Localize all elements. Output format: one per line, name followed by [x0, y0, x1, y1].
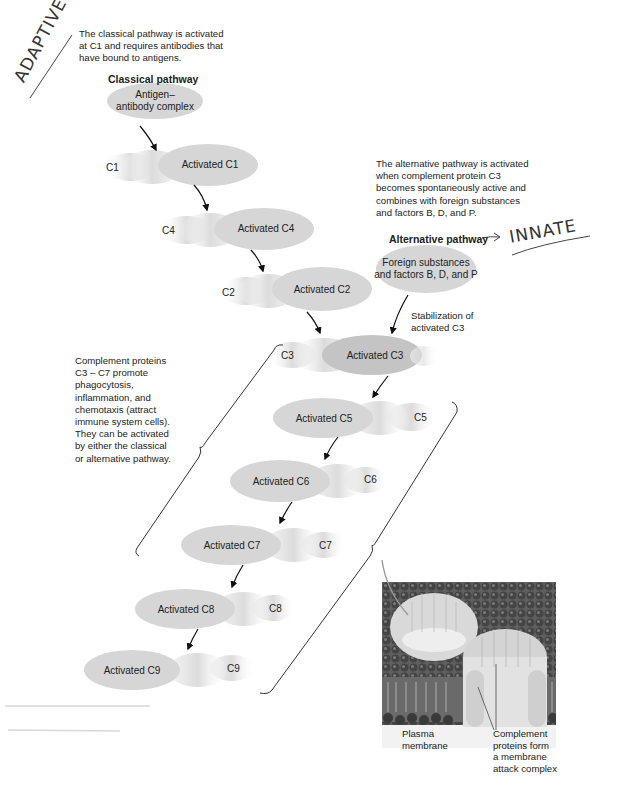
stabilization-label: Stabilization of activated C3	[411, 310, 473, 334]
note-line: chemotaxis (attract	[75, 404, 171, 416]
arrow-alt-to-c3	[392, 295, 408, 333]
arrow-c5-to-c6	[325, 437, 338, 459]
membrane-label-line: membrane	[402, 740, 448, 752]
label-activated-c4: Activated C4	[238, 223, 295, 234]
label-c2: C2	[222, 287, 235, 298]
arrow-c3-to-c5	[373, 376, 388, 397]
antigen-node-line2: antibody complex	[116, 101, 194, 112]
alternative-description: The alternative pathway is activated whe…	[376, 158, 529, 219]
arrow-c4-to-c2	[251, 250, 263, 271]
scan-artifact	[5, 706, 150, 731]
arrow-c1-to-c4	[194, 185, 207, 210]
note-line: C3 – C7 promote	[75, 367, 171, 379]
note-line: phagocytosis,	[75, 379, 171, 391]
classical-desc-line: The classical pathway is activated	[79, 28, 224, 40]
note-line: or alternative pathway.	[75, 453, 171, 465]
stabilization-line: activated C3	[411, 322, 473, 334]
label-activated-c5: Activated C5	[296, 413, 353, 424]
membrane-attack-illustration	[382, 582, 556, 748]
note-line: by either the classical	[75, 440, 171, 452]
label-activated-c2: Activated C2	[294, 284, 351, 295]
classical-desc-line: at C1 and requires antibodies that	[79, 40, 224, 52]
label-c5: C5	[414, 412, 427, 423]
note-line: They can be activated	[75, 428, 171, 440]
label-c3: C3	[281, 350, 294, 361]
complement-note: Complement proteins C3 – C7 promote phag…	[75, 355, 171, 465]
handwritten-underline	[30, 35, 72, 98]
label-activated-c9: Activated C9	[104, 665, 161, 676]
alternative-desc-line: when complement protein C3	[376, 170, 529, 182]
complex-label-line: Complement	[493, 728, 557, 740]
complex-label-line: attack complex	[493, 763, 557, 775]
plasma-membrane-label: Plasma membrane	[402, 728, 448, 751]
classical-pathway-title: Classical pathway	[108, 73, 198, 85]
alternative-desc-line: and factors B, D, and P.	[376, 207, 529, 219]
label-c7: C7	[319, 540, 332, 551]
classical-desc-line: have bound to antigens.	[79, 52, 224, 64]
alt-node-line2: and factors B, D, and P	[374, 269, 478, 280]
alternative-desc-line: combines with foreign substances	[376, 195, 529, 207]
alt-node-line1: Foreign substances	[382, 257, 469, 268]
label-c6: C6	[364, 474, 377, 485]
membrane-svg	[382, 582, 556, 748]
complex-label-line: proteins form	[493, 740, 557, 752]
pathway-arrows	[140, 126, 408, 649]
note-line: Complement proteins	[75, 355, 171, 367]
alternative-desc-line: becomes spontaneously active and	[376, 182, 529, 194]
note-line: inflammation, and	[75, 392, 171, 404]
label-activated-c7: Activated C7	[204, 540, 261, 551]
arrow-c8-to-c9	[188, 629, 198, 649]
label-activated-c8: Activated C8	[158, 604, 215, 615]
label-c9: C9	[227, 663, 240, 674]
label-c4: C4	[162, 225, 175, 236]
alternative-desc-line: The alternative pathway is activated	[376, 158, 529, 170]
label-c1: C1	[106, 162, 119, 173]
arrow-c2-to-c3	[307, 312, 320, 333]
complement-complex-label: Complement proteins form a membrane atta…	[493, 728, 557, 774]
membrane-label-line: Plasma	[402, 728, 448, 740]
classical-description: The classical pathway is activated at C1…	[79, 28, 224, 65]
note-line: immune system cells).	[75, 416, 171, 428]
complex-label-line: a membrane	[493, 751, 557, 763]
alternative-pathway-title: Alternative pathway	[389, 233, 488, 245]
arrow-c6-to-c7	[280, 502, 292, 523]
antigen-node-line1: Antigen–	[135, 89, 175, 100]
label-activated-c6: Activated C6	[253, 476, 310, 487]
arrow-c7-to-c8	[232, 565, 243, 587]
pore-bottom	[463, 629, 547, 727]
label-activated-c3: Activated C3	[347, 350, 404, 361]
stabilization-line: Stabilization of	[411, 310, 473, 322]
label-c8: C8	[269, 603, 282, 614]
label-activated-c1: Activated C1	[182, 159, 239, 170]
arrow-antigen-to-c1	[140, 126, 156, 150]
